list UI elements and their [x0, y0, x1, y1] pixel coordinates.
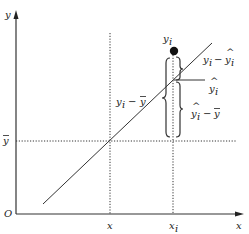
svg-text:^: ^	[192, 100, 200, 111]
fitted-value-label: y ^ i	[208, 75, 218, 97]
svg-text:y: y	[2, 135, 9, 146]
observed-point	[170, 47, 178, 55]
y-axis	[14, 10, 19, 214]
svg-text:y: y	[139, 96, 146, 107]
svg-text:−: −	[128, 96, 136, 107]
svg-text:x: x	[107, 220, 113, 231]
regression-line	[43, 43, 212, 204]
x-axis-label: x	[236, 220, 242, 231]
mean-x-label: x	[107, 220, 113, 231]
svg-text:i: i	[231, 57, 234, 68]
svg-text:i: i	[175, 223, 178, 234]
y-axis-label: y	[4, 9, 11, 20]
svg-text:i: i	[169, 36, 172, 47]
total-deviation-brace	[162, 58, 170, 137]
x-axis	[16, 212, 244, 217]
svg-text:i: i	[215, 86, 218, 97]
explained-deviation-label: y ^ i − y	[190, 100, 220, 122]
regression-decomposition-diagram: y O x x x i y y i y i − y y i − y ^ i y …	[0, 0, 249, 234]
observed-point-label: y i	[162, 33, 172, 47]
svg-text:i: i	[197, 111, 200, 122]
svg-text:y: y	[213, 108, 220, 119]
total-deviation-label: y i − y	[115, 96, 146, 110]
svg-text:−: −	[203, 108, 211, 119]
x-axis-arrow-icon	[235, 212, 244, 217]
svg-text:^: ^	[210, 75, 218, 86]
svg-text:y: y	[162, 33, 169, 44]
svg-text:y: y	[115, 96, 122, 107]
explained-brace	[176, 82, 183, 137]
svg-text:−: −	[214, 54, 222, 65]
y-axis-arrow-icon	[14, 10, 19, 19]
x-i-label: x i	[169, 220, 178, 234]
residual-label: y i − y ^ i	[202, 46, 234, 68]
svg-text:^: ^	[226, 46, 234, 57]
svg-text:i: i	[122, 99, 125, 110]
origin-label: O	[4, 208, 12, 219]
mean-y-label: y	[2, 135, 9, 146]
svg-text:i: i	[209, 57, 212, 68]
svg-text:y: y	[202, 54, 209, 65]
